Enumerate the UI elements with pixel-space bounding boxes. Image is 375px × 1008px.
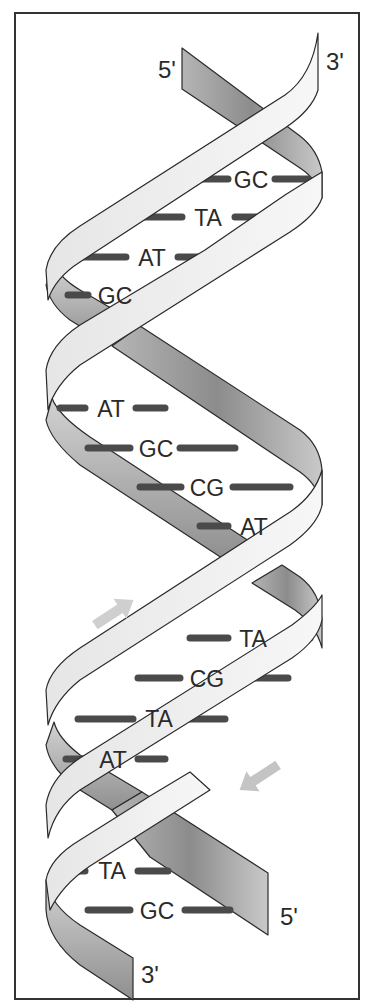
base-pair-label: AT: [99, 747, 127, 773]
base-pair-label: GC: [98, 283, 133, 309]
base-pair-label: CG: [190, 666, 225, 692]
base-pair-label: TA: [239, 626, 267, 652]
base-pair-label: GC: [140, 898, 175, 924]
base-pair-label: AT: [138, 245, 166, 271]
base-pair-label: AT: [97, 396, 125, 422]
label-bottom-3-prime: 3': [141, 961, 159, 988]
base-pair-label: CG: [190, 475, 225, 501]
base-pair-label: GC: [139, 436, 174, 462]
base-pair-label: GC: [234, 167, 269, 193]
label-top-3-prime: 3': [326, 48, 344, 75]
base-pair-label: AT: [240, 514, 268, 540]
base-pair-label: TA: [194, 205, 222, 231]
base-pair-label: TA: [98, 858, 126, 884]
label-bottom-5-prime: 5': [280, 903, 298, 930]
base-pair-label: TA: [145, 706, 173, 732]
label-top-5-prime: 5': [158, 56, 176, 83]
dna-helix-diagram: GC TA AT GC AT GC CG AT TA CG TA AT TA G…: [0, 0, 375, 1008]
